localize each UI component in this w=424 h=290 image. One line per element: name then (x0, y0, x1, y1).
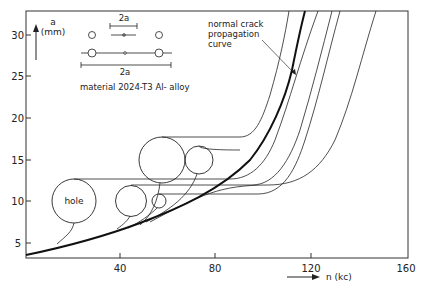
x-axis-tick-labels: 40 80 120 160 (114, 263, 416, 274)
normal-curve-label-line2: propagation (208, 29, 259, 39)
y-tick-25: 25 (11, 71, 24, 82)
holes (52, 137, 213, 223)
x-tick-120: 120 (301, 263, 320, 274)
crack-length-bottom-label: 2a (120, 67, 131, 77)
y-axis-tick-labels: 30 25 20 15 10 5 (11, 30, 24, 249)
y-tick-5: 5 (15, 238, 21, 249)
crack-schematic-inset: 2a 2a material 2024-T3 Al- alloy (80, 13, 190, 92)
normal-curve-annotation: normal crack propagation curve (208, 19, 296, 75)
y-tick-20: 20 (11, 113, 24, 124)
normal-crack-propagation-curve (26, 11, 305, 255)
normal-curve-label-line1: normal crack (208, 19, 264, 29)
x-tick-40: 40 (114, 263, 127, 274)
y-axis-ticks (26, 35, 31, 243)
x-axis-label: n (kc) (326, 272, 352, 282)
y-axis-title: a (mm) (33, 17, 65, 60)
crack-length-top-label: 2a (119, 13, 130, 23)
y-axis-symbol: a (50, 17, 56, 27)
arrow-right-icon (312, 274, 320, 280)
y-axis-unit: (mm) (41, 27, 66, 37)
x-axis-ticks (120, 253, 311, 258)
x-tick-160: 160 (396, 263, 415, 274)
material-label: material 2024-T3 Al- alloy (80, 82, 190, 92)
hole-circle-medium-upper (185, 146, 213, 174)
hole-circle-large-upper (139, 137, 185, 183)
y-tick-15: 15 (11, 155, 24, 166)
x-tick-80: 80 (209, 263, 222, 274)
hole-circle-medium (116, 186, 147, 217)
arrow-up-icon (33, 24, 39, 32)
normal-curve-label-line3: curve (208, 39, 232, 49)
y-tick-10: 10 (11, 196, 24, 207)
crack-growth-chart: 30 25 20 15 10 5 40 80 120 160 a (mm) n … (0, 0, 424, 290)
hole-label: hole (64, 196, 84, 206)
y-tick-30: 30 (11, 30, 24, 41)
